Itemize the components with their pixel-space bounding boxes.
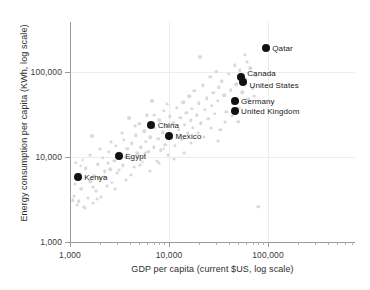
data-point	[95, 198, 98, 201]
data-point	[203, 108, 206, 111]
x-tick-minor	[159, 242, 160, 245]
data-point-highlighted[interactable]	[165, 132, 173, 140]
data-point-highlighted[interactable]	[115, 152, 123, 160]
x-tick-minor	[147, 242, 148, 245]
x-axis-title: GDP per capita (current $US, log scale)	[70, 264, 355, 274]
x-tick-minor	[352, 242, 353, 245]
data-point	[124, 178, 127, 181]
data-point	[110, 141, 113, 144]
data-point	[208, 75, 211, 78]
data-point	[189, 119, 192, 122]
data-point	[121, 164, 124, 167]
data-point	[217, 139, 220, 142]
data-point	[172, 157, 175, 160]
data-point	[116, 171, 119, 174]
data-point	[197, 101, 200, 104]
data-point	[187, 94, 190, 97]
data-point-highlighted[interactable]	[147, 121, 155, 129]
data-point	[110, 181, 113, 184]
data-point	[84, 207, 87, 210]
data-point	[149, 136, 152, 139]
x-tick-minor	[253, 242, 254, 245]
x-tick-minor	[258, 242, 259, 245]
data-point-highlighted[interactable]	[239, 78, 247, 86]
data-point	[73, 183, 76, 186]
data-point	[150, 99, 154, 103]
data-point	[114, 188, 117, 191]
data-point	[161, 131, 164, 134]
y-tick-label: 1,000	[40, 237, 62, 247]
data-point	[224, 120, 227, 123]
data-point	[80, 187, 83, 190]
data-point	[175, 106, 178, 109]
data-point	[90, 134, 94, 138]
data-point-highlighted[interactable]	[262, 44, 270, 52]
data-point	[191, 126, 194, 129]
data-point-label: United Kingdom	[241, 106, 299, 115]
gridline-horizontal	[70, 72, 355, 73]
data-point	[190, 107, 193, 110]
x-tick-minor	[238, 242, 239, 245]
x-tick-minor	[263, 242, 264, 245]
data-point	[132, 166, 135, 169]
data-point	[109, 167, 112, 170]
data-point	[157, 162, 160, 165]
data-point	[241, 90, 244, 93]
data-point-highlighted[interactable]	[231, 97, 239, 105]
data-point-highlighted[interactable]	[74, 173, 82, 181]
data-point	[157, 137, 160, 140]
data-point	[113, 159, 116, 162]
data-point	[117, 169, 120, 172]
data-point	[148, 170, 151, 173]
data-point	[212, 91, 215, 94]
x-tick-minor	[199, 242, 200, 245]
data-point	[235, 82, 238, 85]
data-point	[87, 196, 90, 199]
data-point	[126, 147, 129, 150]
y-tick-label: 100,000	[31, 67, 62, 77]
data-point	[222, 94, 225, 97]
gridline-horizontal	[70, 157, 355, 158]
data-point	[137, 122, 140, 125]
data-point	[94, 189, 97, 192]
data-point	[225, 110, 228, 113]
data-point	[166, 103, 169, 106]
data-point	[129, 173, 132, 176]
data-point	[246, 61, 249, 64]
data-point	[147, 150, 150, 153]
x-tick-minor	[328, 242, 329, 245]
data-point	[101, 156, 104, 159]
data-point	[185, 111, 188, 114]
data-point	[233, 64, 236, 67]
data-point	[106, 162, 109, 165]
data-point	[145, 114, 148, 117]
data-point	[236, 120, 239, 123]
data-point	[74, 161, 77, 164]
data-point-label: United States	[250, 81, 299, 90]
x-tick-major	[169, 242, 170, 247]
x-tick-minor	[315, 242, 316, 245]
data-point	[207, 117, 210, 120]
data-point	[183, 123, 186, 126]
data-point-label: Canada	[247, 69, 276, 78]
data-point	[72, 194, 75, 197]
data-point	[144, 140, 147, 143]
x-tick-minor	[117, 242, 118, 245]
data-point-highlighted[interactable]	[231, 107, 239, 115]
data-point	[193, 89, 196, 92]
data-point	[126, 116, 130, 120]
x-tick-minor	[345, 242, 346, 245]
data-point	[243, 53, 246, 56]
data-point	[96, 163, 99, 166]
x-tick-minor	[216, 242, 217, 245]
data-point	[162, 109, 165, 112]
x-axis-line	[70, 242, 355, 243]
data-point-label: Qatar	[272, 44, 293, 53]
y-tick-major	[65, 242, 70, 243]
x-tick-minor	[229, 242, 230, 245]
gridline-vertical	[268, 22, 269, 242]
data-point	[92, 186, 95, 189]
y-axis-title: Energy consumption per capita (KWh, log …	[19, 13, 29, 233]
y-tick-major	[65, 72, 70, 73]
y-tick-major	[65, 157, 70, 158]
